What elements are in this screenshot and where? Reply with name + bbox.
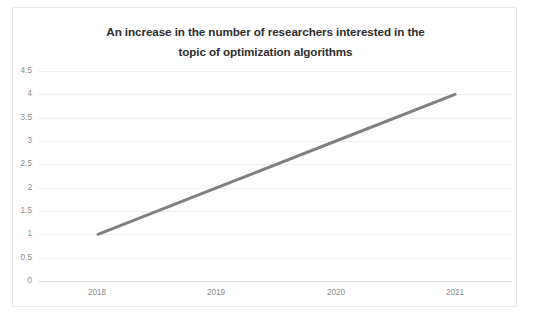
chart-frame: An increase in the number of researchers… [12, 7, 517, 307]
chart-title-line-2: topic of optimization algorithms [43, 42, 488, 62]
chart-title: An increase in the number of researchers… [43, 22, 488, 61]
chart-title-line-1: An increase in the number of researchers… [43, 22, 488, 42]
